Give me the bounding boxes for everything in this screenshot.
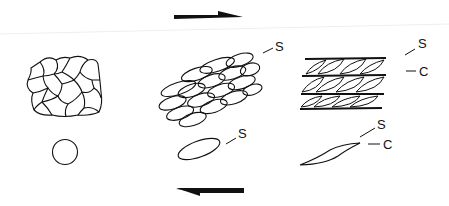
s-label-stage3: S (418, 37, 427, 50)
elongated-grain-aggregate (151, 47, 271, 134)
s-leader-line (263, 48, 273, 53)
s-leader-line-2 (405, 49, 415, 55)
s-marker-leader-line-2 (360, 128, 375, 137)
s-label-stage2: S (275, 40, 284, 53)
shear-arrow-right-icon (174, 11, 243, 19)
ellipse-strain-marker (176, 134, 223, 164)
sc-fabric-diagram: S S C S S C (0, 0, 449, 206)
s-label-ellipse: S (238, 127, 247, 140)
diagram-svg (0, 0, 449, 206)
s-marker-leader-line (226, 138, 236, 144)
sigmoid-strain-marker (300, 143, 360, 165)
c-label-stage3: C (419, 65, 428, 78)
equant-grain-aggregate (27, 56, 101, 117)
sc-banded-aggregate (300, 58, 386, 109)
scan-line (0, 24, 449, 34)
circle-strain-marker (53, 140, 78, 165)
s-label-sigmoid: S (377, 118, 386, 131)
c-label-sigmoid: C (383, 138, 392, 151)
shear-arrow-left-icon (176, 188, 244, 196)
